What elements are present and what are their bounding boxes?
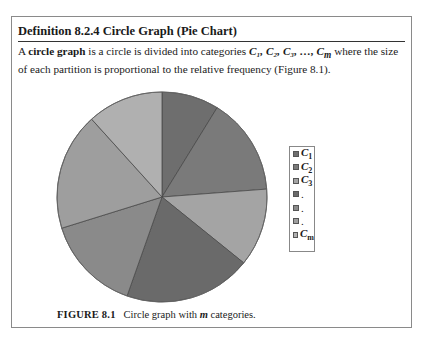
legend-item: C1 xyxy=(290,147,314,161)
legend-label: C3 xyxy=(301,173,312,188)
legend-item: . xyxy=(290,188,314,202)
legend-swatch-icon xyxy=(293,178,299,184)
legend-label: Cm xyxy=(300,227,314,242)
categories-list: C₁, C₂, C₃, …, Cm xyxy=(249,45,331,57)
legend-item: . xyxy=(290,201,314,215)
categories-text: C₁, C₂, C₃, …, C xyxy=(249,45,324,57)
text-segment: is a circle is divided into categories xyxy=(86,45,249,57)
chart-legend: C1C2C3...Cm xyxy=(289,146,315,252)
legend-label: . xyxy=(301,215,304,227)
legend-swatch-icon xyxy=(293,164,299,170)
legend-item: . xyxy=(290,215,314,229)
legend-swatch-icon xyxy=(293,191,299,197)
legend-swatch-icon xyxy=(293,151,299,157)
legend-label: . xyxy=(301,202,304,214)
definition-text: A circle graph is a circle is divided in… xyxy=(18,44,408,76)
figure-caption: FIGURE 8.1Circle graph with m categories… xyxy=(57,309,256,320)
legend-swatch-icon xyxy=(293,218,299,224)
legend-swatch-icon xyxy=(293,232,298,238)
text-segment: A xyxy=(18,45,28,57)
figure-label: FIGURE 8.1 xyxy=(57,309,116,320)
legend-swatch-icon xyxy=(293,205,299,211)
legend-item: Cm xyxy=(290,228,314,242)
caption-variable: m xyxy=(200,309,208,320)
bold-term: circle graph xyxy=(28,45,85,57)
legend-item: C2 xyxy=(290,161,314,175)
caption-text: Circle graph with xyxy=(124,309,200,320)
caption-text: categories. xyxy=(208,309,256,320)
legend-item: C3 xyxy=(290,174,314,188)
pie-chart xyxy=(56,89,272,305)
definition-title: Definition 8.2.4 Circle Graph (Pie Chart… xyxy=(18,24,405,42)
legend-label: . xyxy=(301,188,304,200)
definition-box: Definition 8.2.4 Circle Graph (Pie Chart… xyxy=(11,16,412,328)
